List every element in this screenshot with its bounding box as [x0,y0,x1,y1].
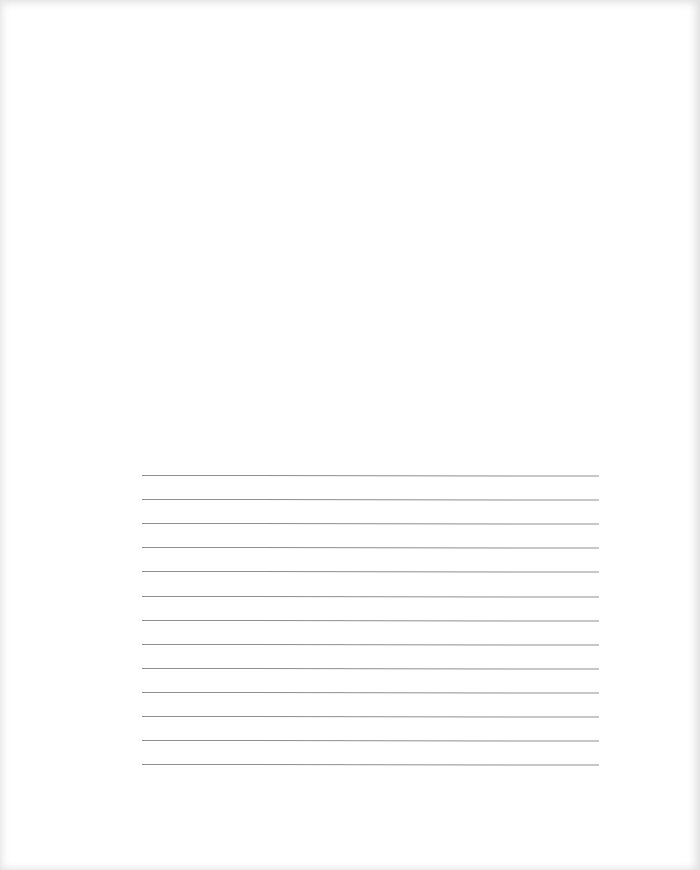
ruled-line [142,644,599,645]
ruled-line [142,571,599,572]
ruled-line [142,475,599,476]
ruled-line [142,740,599,741]
ruled-line [142,620,599,621]
ruled-line [142,499,599,500]
scanned-page [0,0,700,870]
ruled-line [142,596,599,597]
ruled-line [142,716,599,717]
ruled-line [142,668,599,669]
ruled-line [142,547,599,548]
ruled-line [142,523,599,524]
ruled-line [142,692,599,693]
ruled-line [142,764,599,765]
